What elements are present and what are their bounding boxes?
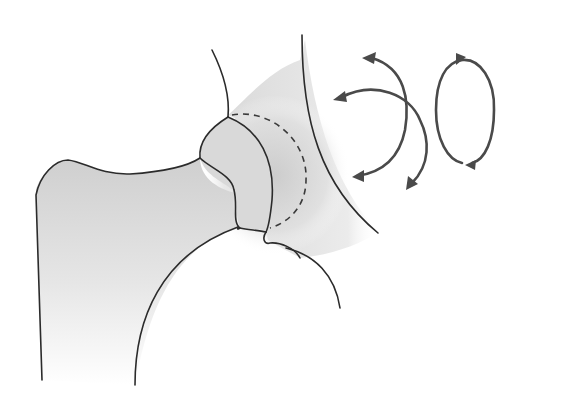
circumduction-arrow-loop bbox=[436, 53, 494, 170]
arrow-head-icon bbox=[465, 160, 476, 170]
femur bbox=[36, 158, 238, 385]
arrow-head-icon bbox=[362, 52, 376, 64]
hip-joint-diagram bbox=[0, 0, 572, 410]
arrow-head-icon bbox=[352, 170, 364, 182]
obturator-curve bbox=[286, 248, 340, 308]
arrow-head-icon bbox=[333, 91, 347, 102]
